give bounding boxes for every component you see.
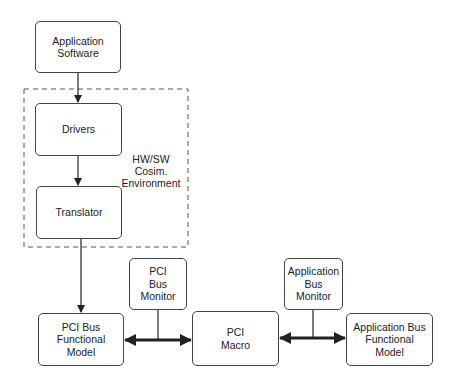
node-pci-bus-monitor: PCI Bus Monitor — [129, 258, 187, 310]
node-drivers: Drivers — [35, 103, 122, 156]
node-application-bus-functional-model: Application Bus Functional Model — [346, 313, 433, 366]
cosim-environment-label: HW/SW Cosim. Environment — [120, 153, 182, 189]
node-translator: Translator — [36, 186, 122, 239]
diagram-canvas: Application Software Drivers Translator … — [0, 0, 458, 388]
node-pci-macro: PCI Macro — [192, 311, 279, 366]
node-pci-bus-functional-model: PCI Bus Functional Model — [38, 313, 124, 366]
node-application-software: Application Software — [35, 21, 121, 73]
node-application-bus-monitor: Application Bus Monitor — [284, 258, 343, 310]
